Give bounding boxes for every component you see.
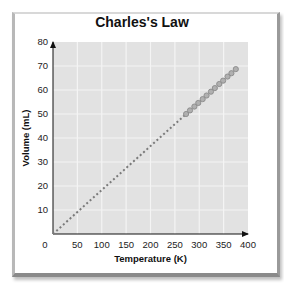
data-point	[196, 100, 201, 105]
x-axis-label: Temperature (K)	[114, 253, 187, 264]
y-tick-label: 80	[37, 36, 48, 47]
x-tick-label: 100	[94, 239, 110, 250]
x-tick-label: 50	[72, 239, 83, 250]
y-tick-label: 30	[37, 156, 48, 167]
x-tick-label: 250	[167, 239, 183, 250]
x-tick-label: 0	[42, 239, 47, 250]
x-tick-label: 150	[118, 239, 134, 250]
y-tick-label: 70	[37, 60, 48, 71]
data-point	[204, 93, 209, 98]
y-axis-label: Volume (mL)	[20, 110, 31, 167]
data-point	[233, 67, 238, 72]
y-tick-label: 60	[37, 84, 48, 95]
data-point	[221, 78, 226, 83]
data-point	[212, 85, 217, 90]
y-tick-label: 50	[37, 108, 48, 119]
chart-plot: 0501001502002503003504001020304050607080…	[0, 0, 284, 285]
x-tick-label: 200	[143, 239, 159, 250]
y-tick-label: 10	[37, 204, 48, 215]
x-tick-label: 400	[240, 239, 256, 250]
data-point	[229, 71, 234, 76]
data-point	[187, 108, 192, 113]
x-tick-label: 350	[216, 239, 232, 250]
y-tick-label: 40	[37, 132, 48, 143]
y-tick-label: 20	[37, 180, 48, 191]
x-tick-label: 300	[191, 239, 207, 250]
